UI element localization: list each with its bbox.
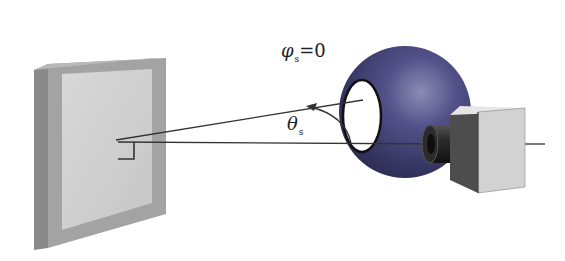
camera-body-front (478, 108, 525, 193)
panel-face (62, 69, 152, 230)
theta-subscript: s (299, 127, 304, 137)
diagram-canvas: φs=0 θs (0, 0, 565, 261)
phi-value: =0 (299, 40, 326, 61)
sphere-port (343, 80, 381, 152)
phi-label: φs=0 (281, 40, 326, 61)
theta-label: θs (287, 113, 303, 134)
phi-symbol: φ (281, 40, 294, 61)
lens-glass (427, 134, 435, 154)
panel-side-edge (34, 64, 48, 250)
target-panel (34, 58, 166, 250)
theta-symbol: θ (287, 113, 298, 134)
arc-arrowhead-icon (306, 103, 317, 111)
phi-subscript: s (295, 54, 300, 64)
